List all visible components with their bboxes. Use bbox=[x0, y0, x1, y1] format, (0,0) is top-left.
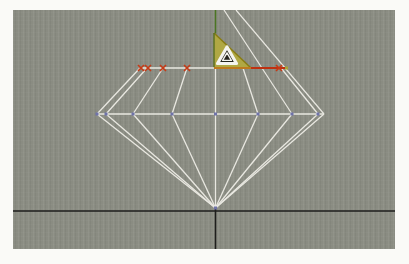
girdle-vertex[interactable] bbox=[257, 113, 260, 116]
pavilion-facet-line bbox=[133, 114, 216, 208]
viewport-canvas[interactable] bbox=[13, 10, 395, 249]
crown-facet-line bbox=[281, 68, 318, 114]
construction-line bbox=[236, 10, 324, 114]
girdle-vertex[interactable] bbox=[132, 113, 135, 116]
crown-facet-line bbox=[243, 68, 258, 114]
crown-facet-line bbox=[133, 68, 163, 114]
pavilion-facet-line bbox=[216, 114, 325, 208]
scene-svg bbox=[13, 10, 395, 249]
girdle-vertex[interactable] bbox=[171, 113, 174, 116]
girdle-vertex[interactable] bbox=[317, 113, 320, 116]
pavilion-facet-line bbox=[97, 114, 216, 208]
girdle-vertex[interactable] bbox=[214, 113, 217, 116]
crown-facet-line bbox=[172, 68, 187, 114]
pavilion-facet-line bbox=[216, 114, 259, 208]
endpoint-dot[interactable] bbox=[285, 67, 288, 70]
pavilion-facet-line bbox=[216, 114, 293, 208]
crown-facet-line bbox=[97, 68, 140, 114]
pavilion-facet-line bbox=[106, 114, 216, 208]
girdle-vertex[interactable] bbox=[291, 113, 294, 116]
crown-facet-line bbox=[106, 68, 147, 114]
culet-vertex[interactable] bbox=[214, 207, 217, 210]
girdle-vertex[interactable] bbox=[96, 113, 99, 116]
pavilion-facet-line bbox=[172, 114, 216, 208]
girdle-vertex[interactable] bbox=[105, 113, 108, 116]
